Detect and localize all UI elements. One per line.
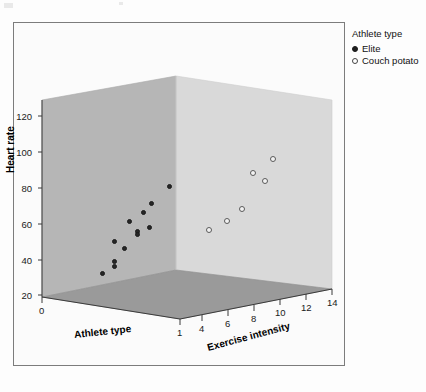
legend-item-couch-potato[interactable]: Couch potato [352, 55, 426, 66]
data-point-elite [149, 201, 154, 206]
data-point-elite [100, 271, 105, 276]
y-tick-label: 60 [2, 219, 32, 230]
data-point-elite [112, 239, 117, 244]
legend-item-label: Couch potato [362, 55, 419, 66]
data-point-elite [122, 246, 127, 251]
y-tick-label: 20 [2, 290, 32, 301]
plot-frame: 20 40 60 80 100 120 0 1 4 6 8 10 12 14 H… [13, 22, 345, 366]
data-point-couch-potato [270, 156, 276, 162]
z-tick-label: 4 [199, 323, 204, 334]
z-tick-label: 12 [301, 302, 312, 313]
data-point-couch-potato [206, 227, 212, 233]
y-axis-ticks [38, 116, 42, 295]
data-point-elite [127, 219, 132, 224]
filled-circle-icon [352, 46, 358, 52]
y-tick-label: 80 [2, 183, 32, 194]
left-wall [42, 76, 176, 297]
z-tick-label: 6 [225, 318, 230, 329]
data-point-elite [147, 225, 152, 230]
data-point-couch-potato [262, 178, 268, 184]
legend-title: Athlete type [352, 28, 426, 39]
data-point-elite [141, 210, 146, 215]
data-point-couch-potato [239, 206, 245, 212]
x-tick-label: 1 [177, 327, 182, 338]
open-circle-icon [352, 58, 358, 64]
scan-artifact-speck [119, 2, 123, 5]
z-tick-label: 8 [251, 313, 256, 324]
legend: Athlete type Elite Couch potato [352, 28, 426, 66]
data-point-couch-potato [224, 218, 230, 224]
legend-item-elite[interactable]: Elite [352, 43, 426, 54]
z-tick-label: 10 [275, 307, 286, 318]
y-axis-title: Heart rate [5, 126, 16, 173]
data-point-couch-potato [250, 170, 256, 176]
three-d-axes-box [14, 23, 346, 367]
scan-artifact-speck [4, 3, 13, 8]
data-point-elite [167, 184, 172, 189]
data-point-elite [112, 264, 117, 269]
y-tick-label: 40 [2, 255, 32, 266]
y-tick-label: 120 [2, 111, 32, 122]
data-point-elite [135, 232, 140, 237]
data-point-elite [112, 259, 117, 264]
z-tick-label: 14 [327, 297, 338, 308]
scanned-page-background: DISTRIBUTION OF ... [0, 0, 426, 392]
legend-item-label: Elite [362, 43, 380, 54]
x-tick-label: 0 [39, 305, 44, 316]
right-wall [176, 76, 332, 289]
